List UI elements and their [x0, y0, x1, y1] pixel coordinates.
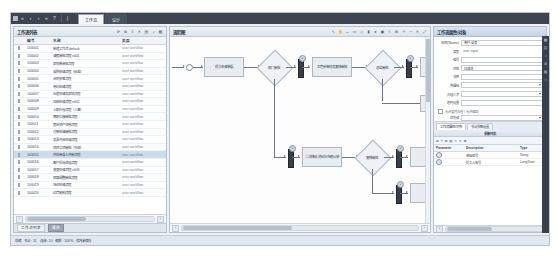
fit-icon[interactable]: ⤢ [422, 29, 427, 34]
footer-tab-workflow-list[interactable]: 工作流列表 [17, 224, 45, 232]
canvas-horizontal-scrollbar[interactable] [181, 225, 419, 231]
row-checkbox[interactable] [18, 77, 20, 81]
delete-icon[interactable]: ✕ [454, 139, 457, 143]
refresh-icon[interactable]: ⟳ [459, 139, 462, 143]
sub-tab-object[interactable]: 工作流属性/对象 [436, 123, 466, 130]
row-checkbox[interactable] [18, 145, 20, 149]
refresh-icon[interactable]: ⟳ [116, 29, 121, 34]
row-checkbox-cell[interactable] [14, 183, 25, 187]
row-checkbox[interactable] [18, 61, 20, 65]
grid-icon[interactable]: ▦ [543, 38, 548, 43]
row-checkbox-cell[interactable] [14, 46, 25, 50]
table-row[interactable]: 100003报销单审批流程user workflow [14, 60, 166, 68]
table-row[interactable]: 100017变更申请流程 v003user workflow [14, 167, 166, 175]
row-checkbox-cell[interactable] [14, 107, 25, 111]
scrollbar-thumb[interactable] [426, 39, 430, 102]
search-icon[interactable]: ⌕ [543, 54, 548, 59]
row-checkbox[interactable] [18, 54, 20, 58]
property-input[interactable] [461, 100, 543, 106]
rect-node-icon[interactable]: ▭ [352, 29, 357, 34]
table-row[interactable]: 100007出差申请及报销流程user workflow [14, 91, 166, 99]
parameter-grid-body[interactable]: 单据编号String提交人账号Long/Date [434, 152, 546, 166]
scroll-right-button[interactable]: › [157, 216, 164, 223]
canvas-vertical-scrollbar[interactable] [425, 37, 430, 223]
property-input[interactable]: 已激活 [461, 65, 543, 71]
save-icon[interactable]: ▤ [543, 70, 548, 75]
footer-tab-properties[interactable]: 属性 [48, 224, 64, 232]
row-checkbox-cell[interactable] [14, 54, 25, 58]
table-row[interactable]: 100001新建工作流 defaultuser workflow [14, 45, 166, 53]
row-checkbox-cell[interactable] [14, 130, 25, 134]
flowchart-canvas[interactable]: 提交申请单据 部门审批 + 主管会签 财务复核审批 总监审批 [170, 37, 430, 223]
property-select[interactable] [461, 91, 543, 97]
pointer-icon[interactable]: ↖ [331, 29, 336, 34]
row-checkbox[interactable] [18, 69, 20, 73]
table-row[interactable]: 100002请假审批流程 v001user workflow [14, 53, 166, 61]
row-checkbox[interactable] [18, 84, 20, 88]
next-icon[interactable]: › [35, 15, 42, 22]
edit-icon[interactable]: ✎ [441, 139, 444, 143]
paste-icon[interactable]: ▤ [449, 139, 452, 143]
row-checkbox[interactable] [18, 191, 20, 195]
property-input[interactable] [461, 57, 543, 63]
property-select[interactable] [461, 82, 543, 88]
canvas-scroll-left-button[interactable]: ‹ [172, 225, 179, 232]
scrollbar-thumb[interactable] [183, 226, 292, 230]
row-checkbox[interactable] [18, 168, 20, 172]
row-checkbox[interactable] [18, 122, 20, 126]
scrollbar-thumb[interactable] [27, 217, 86, 221]
row-checkbox-cell[interactable] [14, 115, 25, 119]
node-n1[interactable]: 提交申请单据 [204, 57, 244, 77]
chevron-down-icon[interactable] [539, 84, 541, 86]
scrollbar-thumb[interactable] [447, 227, 492, 231]
row-checkbox[interactable] [18, 115, 20, 119]
row-checkbox-cell[interactable] [14, 168, 25, 172]
upload-icon[interactable]: ⇪ [130, 29, 135, 34]
row-checkbox-cell[interactable] [14, 61, 25, 65]
tab-design[interactable]: 设计 [105, 14, 127, 24]
table-row[interactable]: 100014项目立项审批（多级）user workflow [14, 144, 166, 152]
param-horizontal-scrollbar[interactable] [445, 226, 544, 232]
table-row[interactable]: 100012付款申请审批流程user workflow [14, 129, 166, 137]
canvas-scroll-right-button[interactable]: › [421, 225, 428, 232]
row-checkbox[interactable] [18, 183, 20, 187]
row-checkbox-cell[interactable] [14, 122, 25, 126]
table-row[interactable]: 100010离职交接审批流程user workflow [14, 113, 166, 121]
row-checkbox[interactable] [18, 175, 20, 179]
prev-icon[interactable]: ‹ [27, 15, 34, 22]
allow-delegate-checkbox[interactable] [438, 109, 443, 114]
row-checkbox[interactable] [18, 160, 20, 164]
table-row[interactable]: 100013发票开具申请流程user workflow [14, 136, 166, 144]
table-row[interactable]: 100011固定资产领用流程user workflow [14, 121, 166, 129]
badge-bar3[interactable]: + [289, 145, 296, 152]
node-n5[interactable]: 二次核验 资料补充确认单 [302, 147, 342, 167]
row-checkbox-cell[interactable] [14, 137, 25, 141]
hand-icon[interactable]: ✋ [338, 29, 343, 34]
table-row[interactable]: 100008加班申请流程 v002user workflow [14, 98, 166, 106]
row-checkbox-cell[interactable] [14, 160, 25, 164]
row-checkbox[interactable] [18, 107, 20, 111]
chevron-down-icon[interactable] [539, 117, 541, 119]
last-icon[interactable]: » [43, 15, 50, 22]
table-row[interactable]: 100019培训申请流程user workflow [14, 182, 166, 190]
link-icon[interactable]: ⛓ [543, 46, 548, 51]
priority-input[interactable] [461, 115, 543, 121]
help-icon[interactable]: ? [51, 15, 58, 22]
table-row[interactable]: 100020印章刻制流程user workflow [14, 189, 166, 197]
connector-icon[interactable]: ↔ [345, 29, 350, 34]
tab-workflow[interactable]: 工作流 [78, 14, 104, 24]
menu-icon[interactable] [13, 16, 18, 21]
zoom-out-icon[interactable]: － [408, 29, 413, 34]
copy-icon[interactable]: ⧉ [445, 139, 447, 143]
row-checkbox[interactable] [18, 99, 20, 103]
row-checkbox-cell[interactable] [14, 92, 25, 96]
save-icon[interactable]: ▤ [144, 29, 149, 34]
scroll-left-button[interactable]: ‹ [16, 216, 23, 223]
align-icon[interactable]: ≡ [387, 29, 392, 34]
table-row[interactable]: 100016客户投诉处理流程user workflow [14, 159, 166, 167]
pipe-icon[interactable]: | [64, 15, 71, 22]
table-row[interactable]: 100005合同会签流程user workflow [14, 75, 166, 83]
add-icon[interactable]: ⊞ [436, 139, 439, 143]
more-icon[interactable]: ▦ [158, 29, 163, 34]
parameter-row[interactable]: 提交人账号Long/Date [434, 159, 546, 166]
